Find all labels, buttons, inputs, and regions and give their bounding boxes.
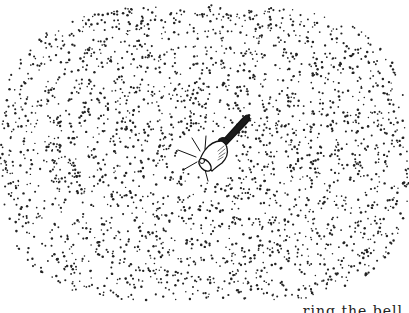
bell-clapper [200, 159, 205, 164]
caption-text: … ring the bell [0, 303, 409, 313]
stipple-illustration [0, 0, 409, 313]
bell-icon [178, 115, 250, 181]
